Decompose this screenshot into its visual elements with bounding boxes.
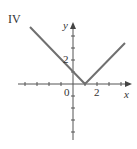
x-tick-label: 2: [94, 87, 100, 98]
origin-label: 0: [64, 87, 70, 98]
function-curve: [30, 27, 125, 84]
x-axis-arrow-icon: [125, 81, 132, 87]
y-axis-arrow-icon: [70, 22, 76, 29]
y-tick-label: 2: [63, 54, 69, 65]
panel-label: IV: [8, 13, 21, 25]
y-axis-label: y: [63, 20, 68, 31]
x-axis-label: x: [124, 89, 129, 100]
